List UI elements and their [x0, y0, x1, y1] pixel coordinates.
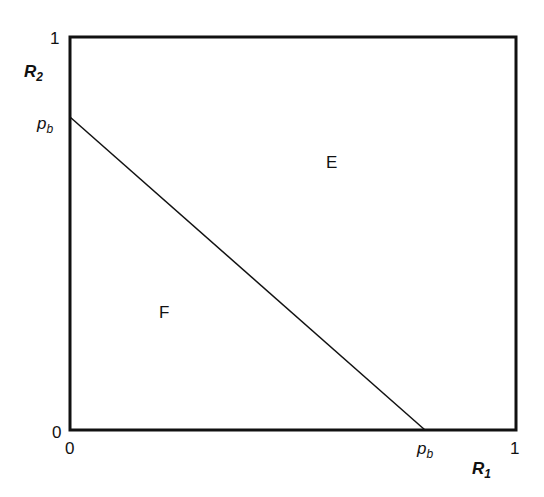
y-tick-1: 1 — [50, 30, 59, 47]
x-tick-1: 1 — [510, 440, 519, 457]
region-f-label: F — [159, 304, 169, 321]
x-axis-label: R1 — [472, 460, 491, 480]
y-tick-pb: pb — [37, 115, 53, 135]
diagram-canvas — [0, 0, 544, 497]
x-tick-0: 0 — [65, 440, 74, 457]
plot-frame — [70, 37, 516, 430]
boundary-line — [70, 117, 425, 430]
x-tick-pb: pb — [417, 440, 433, 460]
region-e-label: E — [326, 154, 337, 171]
y-axis-label: R2 — [24, 63, 43, 83]
y-tick-0: 0 — [52, 424, 61, 441]
